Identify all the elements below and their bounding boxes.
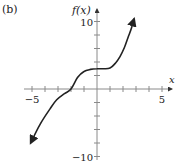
function-curve [31, 19, 134, 143]
axes [24, 9, 172, 160]
y-tick-label: 10 [80, 17, 93, 28]
x-tick-label: −5 [25, 94, 40, 105]
panel-label: (b) [2, 3, 18, 16]
y-axis-label: f(x) [71, 4, 91, 17]
x-axis-label: x [169, 74, 175, 85]
y-tick-label: −10 [72, 152, 93, 163]
function-graph: (b) 5−510−10 f(x) x [0, 0, 178, 163]
x-tick-label: 5 [159, 94, 165, 105]
